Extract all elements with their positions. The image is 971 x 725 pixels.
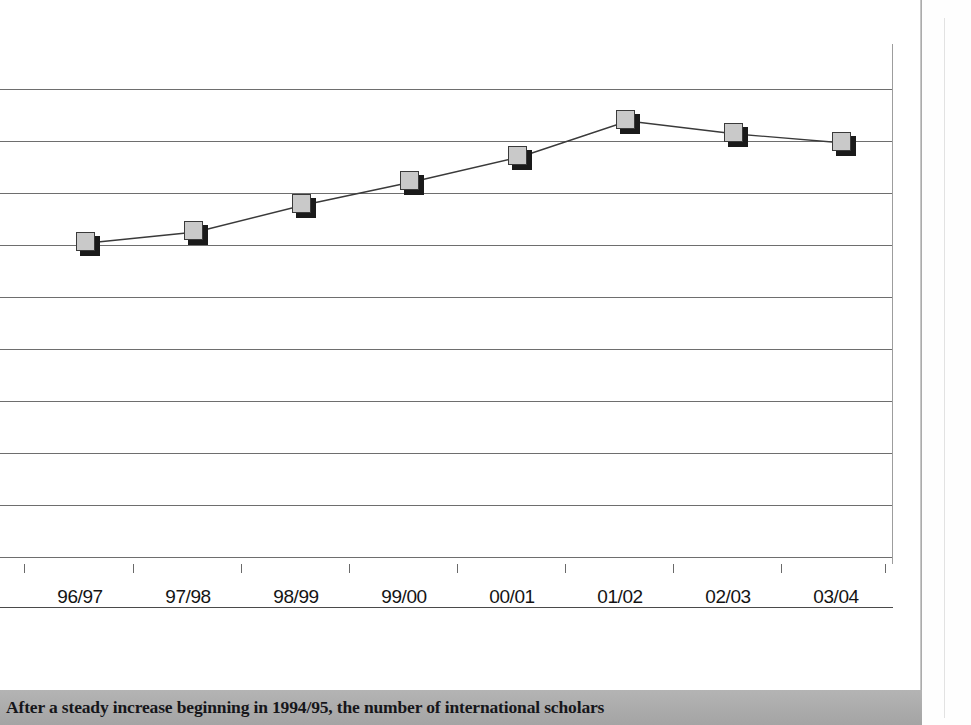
x-axis-label: 02/03 [705,586,751,608]
x-axis-label: 03/04 [813,586,859,608]
x-axis-tick [781,564,782,573]
chart-figure: 96/9797/9898/9999/0000/0101/0202/0303/04 [0,0,922,690]
x-axis-tick [673,564,674,573]
x-axis-tick [133,564,134,573]
x-axis-label: 97/98 [165,586,211,608]
x-axis-label: 01/02 [597,586,643,608]
x-axis-tick [24,564,25,573]
series-line [0,44,893,564]
page-edge-line [944,18,945,718]
plot-area [0,44,893,564]
x-axis-label: 99/00 [381,586,427,608]
page-gutter-line [920,0,922,725]
figure-caption: After a steady increase beginning in 199… [0,697,604,718]
x-axis-label: 00/01 [489,586,535,608]
marker-face [184,221,203,240]
x-axis-label: 98/99 [273,586,319,608]
marker-face [76,232,95,251]
x-axis-tick [457,564,458,573]
x-axis-tick [885,564,886,573]
x-axis-tick [349,564,350,573]
marker-face [292,194,311,213]
x-axis-tick [565,564,566,573]
marker-face [616,110,635,129]
x-axis-labels: 96/9797/9898/9999/0000/0101/0202/0303/04 [0,586,893,612]
caption-bar: After a steady increase beginning in 199… [0,690,922,725]
x-axis-label: 96/97 [57,586,103,608]
x-axis-tick [241,564,242,573]
marker-face [832,132,851,151]
marker-face [508,146,527,165]
marker-face [400,171,419,190]
marker-face [724,123,743,142]
